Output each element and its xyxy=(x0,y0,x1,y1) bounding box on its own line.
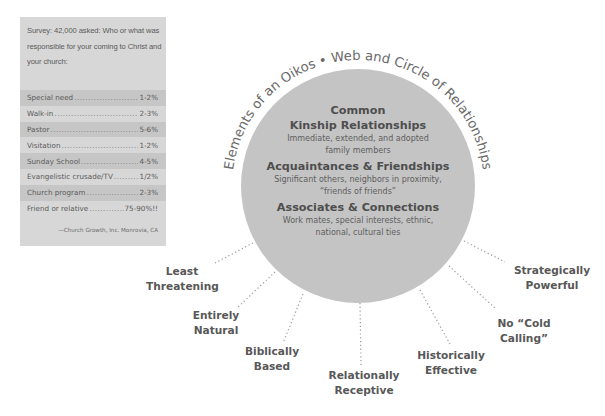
section-title-kinship: Kinship Relationships xyxy=(262,118,454,133)
label-strategically-powerful: Strategically Powerful xyxy=(512,263,592,293)
section-desc-kinship-1: Immediate, extended, and adopted xyxy=(262,133,454,145)
circle-heading-common: Common xyxy=(262,103,454,118)
label-no-cold-calling: No “Cold Calling” xyxy=(494,316,554,346)
label-historically-effective: Historically Effective xyxy=(416,348,486,378)
section-title-associates: Associates & Connections xyxy=(262,200,454,215)
section-title-acquaintances: Acquaintances & Friendships xyxy=(262,159,454,174)
connector-no-cold-calling xyxy=(449,266,496,309)
section-desc-acquaintances-1: Significant others, neighbors in proximi… xyxy=(262,174,454,186)
section-desc-kinship-2: family members xyxy=(262,145,454,157)
connector-relationally-receptive xyxy=(360,303,361,365)
connector-biblically-based xyxy=(283,294,303,343)
connector-historically-effective xyxy=(420,290,450,344)
label-entirely-natural: Entirely Natural xyxy=(186,308,246,338)
label-biblically-based: Biblically Based xyxy=(240,344,304,374)
circle-content: Common Kinship Relationships Immediate, … xyxy=(262,103,454,239)
label-relationally-receptive: Relationally Receptive xyxy=(326,368,402,398)
section-desc-associates-1: Work mates, special interests, ethnic, xyxy=(262,215,454,227)
connector-least-threatening xyxy=(215,243,253,263)
connector-entirely-natural xyxy=(238,272,275,307)
section-desc-associates-2: national, cultural ties xyxy=(262,227,454,239)
label-least-threatening: Least Threatening xyxy=(146,264,218,294)
section-desc-acquaintances-2: “friends of friends” xyxy=(262,186,454,198)
connector-strategically-powerful xyxy=(464,241,505,262)
